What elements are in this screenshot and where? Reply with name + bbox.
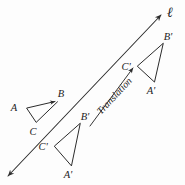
triangle-abc-edge-ab	[27, 102, 55, 109]
translation-vector-label: Translation	[94, 75, 134, 116]
triangle-upper-edges	[137, 44, 163, 82]
line-ell	[8, 15, 161, 176]
vertex-label-a: A	[10, 102, 18, 113]
vertex-label-c-prime-upper: C'	[121, 61, 131, 72]
triangle-abc: A B C	[10, 88, 65, 137]
translation-diagram: ℓ Translation A B C B' C' A' B' C'	[0, 0, 185, 185]
vertex-label-b-prime-upper: B'	[164, 31, 173, 42]
vertex-label-b-prime-middle: B'	[81, 111, 90, 122]
triangle-a-prime-b-prime-c-prime-middle: B' C' A'	[38, 111, 90, 180]
vertex-label-b: B	[58, 88, 65, 99]
triangle-middle-edges	[54, 124, 80, 166]
vertex-label-a-prime-upper: A'	[146, 85, 156, 96]
translation-vector-group: Translation	[90, 68, 134, 126]
line-ell-label: ℓ	[167, 5, 173, 20]
vertex-label-c: C	[29, 126, 37, 137]
vertex-label-a-prime-middle: A'	[63, 169, 73, 180]
vertex-label-c-prime-middle: C'	[38, 141, 48, 152]
diagram-canvas: ℓ Translation A B C B' C' A' B' C'	[0, 0, 185, 185]
